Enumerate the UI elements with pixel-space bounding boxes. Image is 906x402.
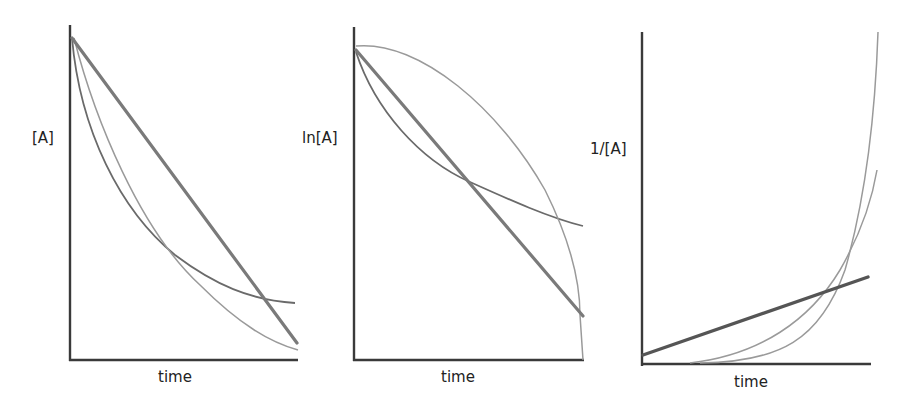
x-axis-label: time xyxy=(734,373,768,391)
zero-order-line xyxy=(72,38,297,343)
y-axis-label: ln[A] xyxy=(302,129,338,147)
zero-order-curve xyxy=(700,32,878,363)
second-order-curve xyxy=(356,52,583,226)
panel-ln-concentration: ln[A] time xyxy=(302,27,584,386)
second-order-line xyxy=(643,277,868,355)
x-axis-label: time xyxy=(158,368,192,386)
kinetics-plots: [A] time ln[A] time 1/[A] time xyxy=(0,0,906,402)
first-order-curve xyxy=(72,38,295,303)
panel-inverse-concentration: 1/[A] time xyxy=(590,32,878,391)
x-axis-label: time xyxy=(441,368,475,386)
first-order-curve xyxy=(690,170,877,363)
y-axis-label: 1/[A] xyxy=(590,140,627,158)
first-order-line xyxy=(356,50,583,316)
panel-concentration: [A] time xyxy=(32,25,298,386)
zero-order-curve xyxy=(356,46,583,360)
y-axis-label: [A] xyxy=(32,129,54,147)
